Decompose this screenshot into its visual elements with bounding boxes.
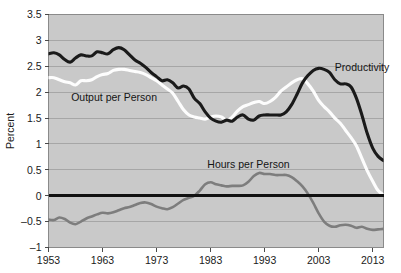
xtick-label-2013: 2013	[361, 254, 385, 266]
ytick-label-1.5: 1.5	[27, 112, 42, 124]
ytick-label-2: 2	[36, 86, 42, 98]
ytick-label-0: 0	[36, 190, 42, 202]
xtick-label-1983: 1983	[199, 254, 223, 266]
ytick-label--1: –1	[30, 241, 42, 253]
ytick-label-0.5: 0.5	[27, 164, 42, 176]
xtick-label-2003: 2003	[307, 254, 331, 266]
ytick-label-3: 3	[36, 34, 42, 46]
ytick-label-3.5: 3.5	[27, 8, 42, 20]
ytick-label--0.5: –0.5	[21, 215, 42, 227]
xtick-label-1963: 1963	[91, 254, 115, 266]
y-axis-title: Percent	[4, 113, 16, 149]
series-label-productivity: Productivity	[335, 61, 390, 73]
xtick-label-1953: 1953	[37, 254, 61, 266]
xtick-label-1993: 1993	[253, 254, 277, 266]
ytick-label-2.5: 2.5	[27, 60, 42, 72]
xtick-label-1973: 1973	[145, 254, 169, 266]
ytick-label-1: 1	[36, 138, 42, 150]
chart-canvas: 3.532.521.510.50–0.5–1195319631973198319…	[0, 0, 401, 273]
series-label-hours-per-person: Hours per Person	[207, 158, 289, 170]
series-label-output-per-person: Output per Person	[71, 91, 157, 103]
productivity-chart: 3.532.521.510.50–0.5–1195319631973198319…	[0, 0, 401, 273]
